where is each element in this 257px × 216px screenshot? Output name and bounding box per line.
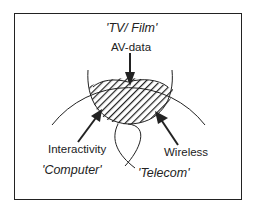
- wireless-label: Wireless: [164, 146, 208, 158]
- telecom-label: 'Telecom': [138, 166, 190, 180]
- computer-label: 'Computer': [42, 163, 102, 177]
- interactivity-label: Interactivity: [48, 143, 106, 155]
- tv-film-label: 'TV/ Film': [106, 21, 157, 35]
- av-data-label: AV-data: [111, 41, 151, 53]
- computer-arc-lower: [115, 124, 135, 168]
- interactivity-arrow: [78, 109, 102, 142]
- wireless-arrow: [155, 111, 178, 145]
